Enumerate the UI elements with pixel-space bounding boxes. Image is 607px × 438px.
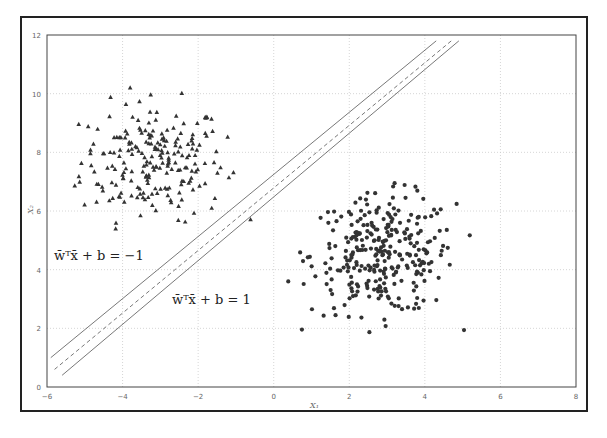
circle-point: [429, 214, 433, 218]
triangle-point: [129, 178, 134, 182]
triangle-point: [129, 193, 134, 197]
circle-point: [412, 288, 416, 292]
triangle-point: [166, 156, 171, 160]
triangle-point: [153, 117, 158, 121]
circle-point: [370, 223, 374, 227]
circle-point: [437, 276, 441, 280]
circle-point: [358, 269, 362, 273]
circle-point: [418, 263, 422, 267]
triangle-point: [86, 124, 91, 128]
triangle-point: [168, 198, 173, 202]
triangle-point: [231, 170, 236, 174]
triangle-point: [178, 144, 183, 148]
y-tick-label: 4: [37, 267, 42, 275]
triangle-point: [150, 192, 155, 196]
circle-point: [377, 238, 381, 242]
triangle-point: [72, 183, 77, 187]
triangle-point: [141, 191, 146, 195]
circle-point: [394, 270, 398, 274]
circle-point: [329, 288, 333, 292]
circle-point: [366, 279, 370, 283]
circle-point: [434, 298, 438, 302]
triangle-point: [203, 161, 208, 165]
circle-point: [376, 289, 380, 293]
y-tick-label: 8: [37, 149, 41, 157]
circle-point: [356, 284, 360, 288]
x-tick-label: 0: [271, 393, 275, 401]
margin-lines: [51, 41, 459, 375]
margin-line: [51, 41, 436, 358]
circle-point: [355, 263, 359, 267]
circle-point: [432, 208, 436, 212]
circle-point: [349, 253, 353, 257]
triangle-point: [151, 128, 156, 132]
triangle-point: [214, 149, 219, 153]
triangle-point: [160, 161, 165, 165]
circle-point: [322, 314, 326, 318]
circle-point: [405, 263, 409, 267]
triangle-point: [158, 187, 163, 191]
y-tick-label: 6: [37, 208, 42, 216]
circle-point: [384, 324, 388, 328]
circle-point: [368, 231, 372, 235]
triangle-point: [92, 169, 97, 173]
circle-point: [374, 252, 378, 256]
circle-point: [339, 214, 343, 218]
circle-point: [445, 228, 449, 232]
circle-point: [389, 233, 393, 237]
circle-point: [387, 250, 391, 254]
triangle-point: [167, 185, 172, 189]
circle-point: [439, 253, 443, 257]
circle-point: [375, 211, 379, 215]
x-tick-label: 6: [498, 393, 503, 401]
circle-point: [417, 306, 421, 310]
triangle-point: [110, 180, 115, 184]
circle-point: [412, 244, 416, 248]
triangle-point: [180, 153, 185, 157]
circle-point: [353, 201, 357, 205]
circle-point: [391, 196, 395, 200]
circle-point: [350, 223, 354, 227]
triangle-point: [154, 208, 159, 212]
circle-point: [378, 277, 382, 281]
circle-point: [372, 268, 376, 272]
circle-point: [408, 252, 412, 256]
circle-point: [398, 253, 402, 257]
x-tick-label: −4: [117, 393, 128, 401]
circle-point: [310, 307, 314, 311]
triangle-point: [79, 161, 84, 165]
triangle-point: [130, 115, 135, 119]
circle-point: [448, 263, 452, 267]
circle-point: [351, 235, 355, 239]
triangle-point: [189, 176, 194, 180]
x-tick-label: 8: [574, 393, 578, 401]
circle-point: [412, 307, 416, 311]
circle-point: [346, 240, 350, 244]
triangle-point: [108, 95, 113, 99]
circle-point: [332, 306, 336, 310]
triangle-point: [210, 129, 215, 133]
y-tick-label: 10: [32, 91, 41, 99]
triangle-point: [94, 200, 99, 204]
circle-point: [349, 286, 353, 290]
circle-point: [383, 287, 387, 291]
circle-point: [347, 283, 351, 287]
circle-point: [400, 257, 404, 261]
circle-point: [409, 213, 413, 217]
triangle-point: [145, 159, 150, 163]
x-axis-label: X₁: [309, 401, 319, 410]
triangle-point: [118, 148, 123, 152]
triangle-point: [113, 226, 118, 230]
circle-point: [393, 181, 397, 185]
circle-point: [421, 298, 425, 302]
circle-point: [377, 249, 381, 253]
circle-point: [416, 231, 420, 235]
triangle-point: [107, 114, 112, 118]
circle-point: [356, 248, 360, 252]
circle-point: [387, 256, 391, 260]
triangle-point: [88, 148, 93, 152]
triangle-point: [176, 218, 181, 222]
triangle-point: [213, 196, 218, 200]
circle-point: [392, 206, 396, 210]
circle-point: [387, 213, 391, 217]
